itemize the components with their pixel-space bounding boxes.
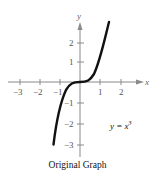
y-tick-label: 1: [69, 57, 74, 67]
y-tick-label: 2: [69, 38, 74, 48]
x-tick-label: −1: [53, 87, 63, 97]
equation-label: y = x3: [109, 120, 132, 131]
x-axis-arrow-icon: [136, 80, 144, 85]
y-axis: y 2 1 −1 −2 −3: [64, 11, 84, 157]
y-tick-label: −3: [64, 140, 74, 150]
x-tick-label: −2: [33, 87, 43, 97]
x-tick-label: 2: [119, 87, 124, 97]
x-tick-label: −3: [13, 87, 23, 97]
y-tick-label: −1: [64, 98, 74, 108]
graph-caption: Original Graph: [0, 160, 155, 170]
x-axis-label: x: [144, 77, 149, 87]
x-axis: x −3 −2 −1 1 2: [8, 77, 149, 97]
x-tick-label: 1: [98, 87, 103, 97]
y-axis-label: y: [76, 11, 81, 21]
y-tick-label: −2: [64, 119, 74, 129]
cubic-curve: [54, 22, 110, 145]
cubic-graph: x −3 −2 −1 1 2 y 2 1 −1 −2 −3 y = x3: [0, 0, 155, 172]
y-axis-arrow-icon: [78, 22, 83, 30]
